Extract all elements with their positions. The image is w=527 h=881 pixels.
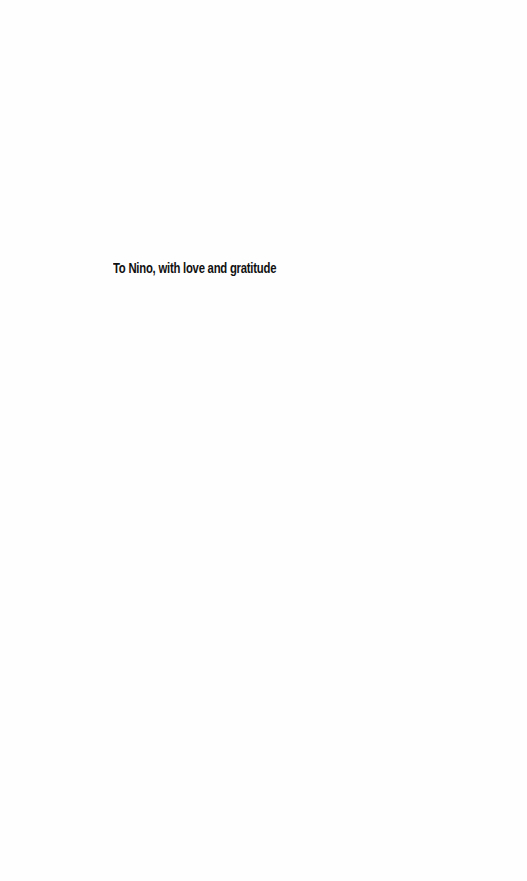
dedication-text: To Nino, with love and gratitude <box>113 259 276 277</box>
book-page: To Nino, with love and gratitude <box>0 0 527 881</box>
